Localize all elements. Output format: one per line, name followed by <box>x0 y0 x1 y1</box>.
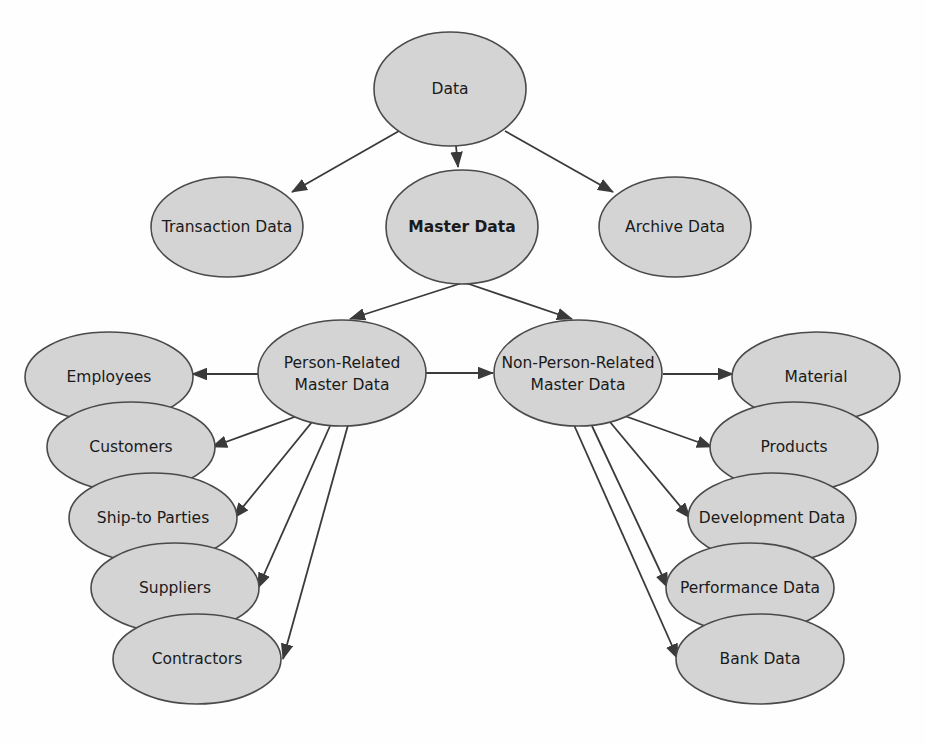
node-label-nonperson: Non-Person-Related <box>501 354 654 372</box>
node-label-employees: Employees <box>67 368 152 386</box>
edge-master-to-nonperson <box>466 283 572 319</box>
node-label-archive: Archive Data <box>625 218 725 236</box>
node-shape-nonperson[interactable] <box>494 320 662 426</box>
node-contractors[interactable]: Contractors <box>113 614 281 704</box>
node-label-suppliers: Suppliers <box>139 579 211 597</box>
node-data[interactable]: Data <box>374 32 526 146</box>
node-label-nonperson-line2: Master Data <box>531 376 626 394</box>
nodes-layer: DataTransaction DataMaster DataArchive D… <box>25 32 900 704</box>
node-label-performance: Performance Data <box>680 579 820 597</box>
node-label-products: Products <box>761 438 828 456</box>
data-classification-diagram: DataTransaction DataMaster DataArchive D… <box>0 0 926 745</box>
edge-nonperson-to-products <box>622 415 712 447</box>
edge-nonperson-to-development <box>610 422 690 518</box>
node-label-development: Development Data <box>699 509 845 527</box>
edge-person-to-shipto <box>234 422 312 518</box>
diagram-canvas: DataTransaction DataMaster DataArchive D… <box>0 0 926 745</box>
node-master[interactable]: Master Data <box>386 170 538 284</box>
node-label-material: Material <box>785 368 848 386</box>
node-label-master: Master Data <box>408 218 515 236</box>
edge-data-to-master <box>456 146 458 167</box>
edge-data-to-transaction <box>292 131 399 192</box>
node-label-customers: Customers <box>89 438 172 456</box>
node-label-transaction: Transaction Data <box>161 218 293 236</box>
node-archive[interactable]: Archive Data <box>599 177 751 277</box>
node-label-person: Person-Related <box>284 354 401 372</box>
edge-person-to-customers <box>212 415 300 447</box>
edge-nonperson-to-bank <box>574 425 678 659</box>
node-label-shipto: Ship-to Parties <box>97 509 209 527</box>
node-label-person-line2: Master Data <box>295 376 390 394</box>
node-transaction[interactable]: Transaction Data <box>151 177 303 277</box>
node-label-data: Data <box>431 80 468 98</box>
node-person[interactable]: Person-RelatedMaster Data <box>258 320 426 426</box>
node-bank[interactable]: Bank Data <box>676 614 844 704</box>
node-nonperson[interactable]: Non-Person-RelatedMaster Data <box>494 320 662 426</box>
edge-person-to-suppliers <box>258 426 330 588</box>
node-label-bank: Bank Data <box>720 650 801 668</box>
node-label-contractors: Contractors <box>152 650 243 668</box>
edge-master-to-person <box>350 283 462 319</box>
edge-nonperson-to-performance <box>592 426 668 588</box>
node-shape-person[interactable] <box>258 320 426 426</box>
edge-data-to-archive <box>505 131 613 192</box>
